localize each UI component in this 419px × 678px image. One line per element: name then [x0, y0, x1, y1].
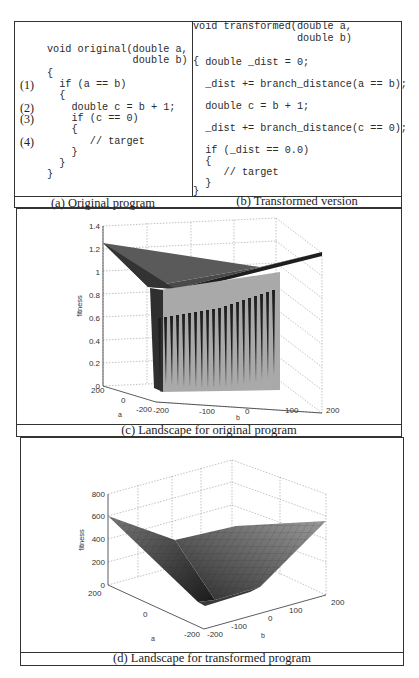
svg-text:200: 200: [88, 589, 102, 598]
svg-text:b: b: [261, 632, 265, 639]
chart-d-transformed-landscape: 0 200 400 600 800 fitness 200 0 -200 a -…: [0, 0, 419, 678]
svg-text:-200: -200: [207, 630, 224, 639]
svg-text:200: 200: [92, 558, 106, 567]
svg-text:600: 600: [92, 512, 106, 521]
svg-text:a: a: [151, 635, 155, 642]
svg-text:100: 100: [289, 606, 303, 615]
svg-text:800: 800: [92, 490, 106, 499]
svg-text:-200: -200: [184, 630, 201, 639]
svg-text:400: 400: [92, 535, 106, 544]
svg-text:0: 0: [268, 614, 273, 623]
svg-text:200: 200: [331, 598, 345, 607]
z-axis-label: fitness: [77, 529, 86, 551]
svg-text:-100: -100: [231, 622, 248, 631]
svg-text:0: 0: [143, 610, 148, 619]
